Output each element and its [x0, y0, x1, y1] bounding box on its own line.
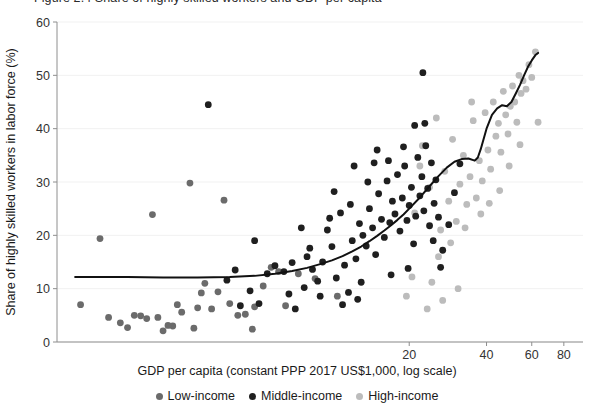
data-point [409, 274, 416, 281]
data-point [378, 216, 385, 223]
data-point [403, 293, 410, 300]
data-point [329, 243, 336, 250]
data-point [295, 270, 302, 277]
data-point [208, 306, 215, 313]
data-point [430, 237, 437, 244]
data-point [306, 245, 313, 252]
legend-label: High-income [368, 389, 438, 403]
data-point [400, 143, 407, 150]
data-point [414, 154, 421, 161]
data-point [445, 198, 452, 205]
data-point [470, 117, 477, 124]
data-point [292, 306, 299, 313]
data-point [462, 224, 469, 231]
data-point [405, 265, 412, 272]
data-point [453, 218, 460, 225]
legend-item-middle-income[interactable]: Middle-income [249, 389, 342, 403]
x-axis-label: GDP per capita (constant PPP 2017 US$1,0… [137, 364, 456, 378]
x-tick-label: 20 [402, 348, 416, 362]
data-point [260, 283, 267, 290]
data-point [364, 179, 371, 186]
data-point [535, 119, 542, 126]
data-point [353, 255, 360, 262]
data-point [354, 296, 361, 303]
data-point [447, 239, 454, 246]
data-point [404, 217, 411, 224]
data-point [160, 327, 167, 334]
data-point [394, 171, 401, 178]
axis-ticks: 010203040506020406080 [36, 16, 571, 363]
data-point [482, 109, 489, 116]
data-point [337, 210, 344, 217]
data-point [232, 267, 239, 274]
data-point [435, 253, 442, 260]
data-point [272, 262, 279, 269]
data-point [198, 290, 205, 297]
data-point [399, 195, 406, 202]
data-point [445, 221, 452, 228]
data-point [226, 300, 233, 307]
data-point [369, 224, 376, 231]
data-point [384, 178, 391, 185]
legend-marker-icon [156, 393, 163, 400]
data-point [304, 253, 311, 260]
data-point [358, 279, 365, 286]
data-point [154, 314, 161, 321]
data-point [143, 315, 150, 322]
data-point [460, 152, 467, 159]
data-point [97, 235, 104, 242]
data-point [437, 227, 444, 234]
data-point [194, 304, 201, 311]
trend-line [75, 53, 538, 278]
data-point [314, 278, 321, 285]
data-point [505, 131, 512, 138]
series-points-low-income [77, 180, 341, 335]
data-point [388, 271, 395, 278]
data-point [333, 275, 340, 282]
y-tick-label: 0 [43, 336, 50, 350]
data-point [422, 142, 429, 149]
data-point [498, 149, 505, 156]
data-point [105, 314, 112, 321]
data-point [237, 302, 244, 309]
data-point [490, 99, 497, 106]
data-point [205, 101, 212, 108]
data-point [468, 99, 475, 106]
data-point [131, 312, 138, 319]
legend: Low-incomeMiddle-incomeHigh-income [0, 389, 594, 403]
legend-label: Low-income [168, 389, 235, 403]
scatter-plot: 010203040506020406080 GDP per capita (co… [0, 0, 594, 419]
series-points-high-income [403, 48, 541, 312]
data-point [215, 288, 222, 295]
data-point [456, 181, 463, 188]
data-point [408, 184, 415, 191]
data-point [420, 207, 427, 214]
y-tick-label: 40 [36, 122, 50, 136]
data-point [392, 211, 399, 218]
data-point [247, 287, 254, 294]
data-point [419, 69, 426, 76]
data-point [416, 163, 423, 170]
legend-label: Middle-income [261, 389, 342, 403]
data-point [435, 214, 442, 221]
data-point [366, 205, 373, 212]
data-point [242, 311, 249, 318]
data-point [486, 200, 493, 207]
data-point [339, 301, 346, 308]
legend-marker-icon [356, 393, 363, 400]
data-point [381, 234, 388, 241]
data-point [496, 187, 503, 194]
data-point [495, 120, 502, 127]
data-point [506, 163, 513, 170]
y-tick-label: 50 [36, 69, 50, 83]
legend-item-low-income[interactable]: Low-income [156, 389, 235, 403]
data-point [324, 227, 331, 234]
legend-item-high-income[interactable]: High-income [356, 389, 438, 403]
data-point [433, 115, 440, 122]
data-point [513, 119, 520, 126]
data-point [317, 293, 324, 300]
data-point [410, 240, 417, 247]
data-point [351, 163, 358, 170]
x-tick-label: 40 [480, 348, 494, 362]
data-point [374, 147, 381, 154]
